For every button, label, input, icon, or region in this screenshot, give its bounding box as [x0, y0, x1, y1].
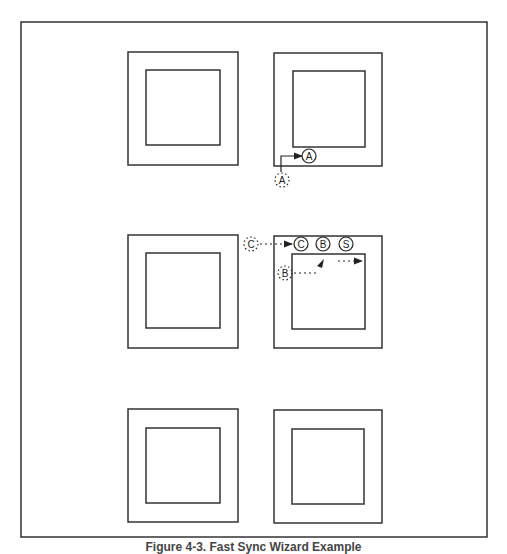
marker-a-label: A	[306, 151, 313, 162]
marker-c-label: C	[297, 239, 304, 250]
marker-b-dashed-label: B	[282, 268, 289, 279]
marker-b-label: B	[320, 239, 327, 250]
marker-s-label: S	[343, 239, 350, 250]
marker-a-dashed: A	[275, 173, 289, 187]
marker-a-solid: A	[302, 149, 316, 163]
panel-top-left	[128, 52, 238, 165]
figure-caption: Figure 4-3. Fast Sync Wizard Example	[0, 540, 507, 554]
marker-b-dashed: B	[278, 266, 292, 280]
marker-b-arrowhead	[317, 259, 324, 268]
marker-b-solid: B	[316, 237, 330, 251]
marker-a-dashed-label: A	[279, 175, 286, 186]
panel-middle-right	[274, 236, 382, 348]
marker-c-dashed: C	[244, 237, 258, 251]
marker-a-path	[281, 156, 302, 172]
marker-c-dashed-label: C	[247, 239, 254, 250]
outer-frame	[21, 22, 487, 537]
panel-top-right	[274, 53, 382, 166]
marker-s-solid: S	[339, 237, 353, 251]
panel-bottom-left	[128, 409, 238, 522]
marker-c-solid: C	[294, 237, 308, 251]
panel-bottom-right	[274, 410, 382, 523]
panel-middle-left	[128, 235, 238, 348]
